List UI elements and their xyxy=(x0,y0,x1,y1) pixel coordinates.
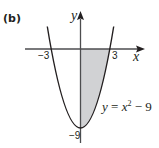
equation-equals: = xyxy=(108,99,122,114)
shaded-region xyxy=(81,49,111,128)
tick-label-neg-9: −9 xyxy=(69,130,81,141)
tick-label-neg-3: −3 xyxy=(38,50,50,61)
x-axis-label: x xyxy=(132,49,140,64)
panel-label: (b) xyxy=(3,12,21,25)
tick-label-pos-3: 3 xyxy=(112,50,118,61)
y-axis-arrow-icon xyxy=(77,11,84,20)
y-axis-label: y xyxy=(69,8,78,23)
equation-rest: − 9 xyxy=(131,99,151,114)
equation-label: y = x2 − 9 xyxy=(100,99,152,114)
parabola-figure: (b) y x −3 3 −9 y = x2 − 9 xyxy=(0,0,159,148)
